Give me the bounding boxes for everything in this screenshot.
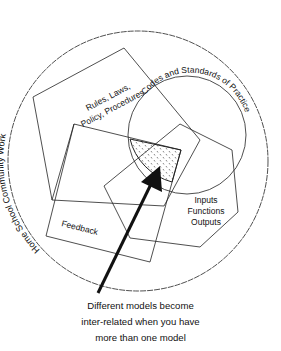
hexagon-label-inputs: Inputs xyxy=(194,195,217,205)
hexagon-label-functions: Functions xyxy=(188,206,225,216)
outer-circle-label: Home School Community Work xyxy=(0,132,41,255)
feedback-label: Feedback xyxy=(61,218,100,237)
feedback-rectangle xyxy=(46,124,181,262)
hexagon-label-outputs: Outputs xyxy=(191,217,221,227)
caption-line-2: inter-related when you have xyxy=(0,314,281,330)
caption-line-1: Different models become xyxy=(0,298,281,314)
outer-circle xyxy=(8,31,268,291)
arrow-shaft xyxy=(98,182,152,293)
caption: Different models become inter-related wh… xyxy=(0,298,281,346)
caption-line-3: more than one model xyxy=(0,330,281,346)
rules-pentagon-inner-edge xyxy=(52,124,74,200)
inner-circle-label: Codes and Standards of Practice xyxy=(139,65,253,114)
